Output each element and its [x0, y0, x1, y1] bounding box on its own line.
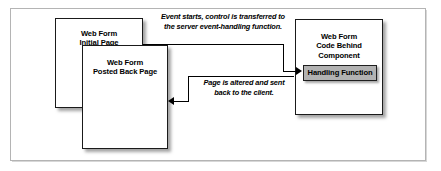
node-label-code-behind-line2: Code Behind Component — [316, 41, 362, 59]
top-arrow-head-icon — [296, 67, 302, 75]
annotation-top-arrow: Event starts, control is transferred to … — [152, 12, 294, 31]
annotation-bottom-arrow-line1: Page is altered and sent — [203, 78, 284, 87]
node-handling-function: Handling Function — [303, 65, 377, 81]
bottom-arrow-head-icon — [168, 97, 174, 105]
annotation-bottom-arrow-line2: back to the client. — [214, 88, 274, 97]
annotation-top-arrow-line2: the server event-handling function. — [164, 22, 282, 31]
node-label-code-behind-line1: Web Form — [321, 32, 357, 41]
node-web-form-posted-back-page: Web Form Posted Back Page — [82, 45, 168, 149]
node-label-initial-page-line1: Web Form — [81, 29, 117, 38]
top-arrow-segment-vertical — [283, 44, 284, 71]
node-label-posted-back-page-line1: Web Form — [107, 58, 143, 67]
top-arrow-segment-horizontal-1 — [143, 44, 284, 45]
bottom-arrow-segment-horizontal-1 — [188, 76, 294, 77]
node-web-form-code-behind-component: Web Form Code Behind Component Handling … — [295, 19, 383, 115]
bottom-arrow-segment-horizontal-2 — [174, 101, 189, 102]
bottom-arrow-segment-vertical — [188, 76, 189, 102]
annotation-bottom-arrow: Page is altered and sent back to the cli… — [192, 78, 296, 97]
diagram-canvas: Web Form Initial Page Web Form Posted Ba… — [0, 0, 441, 171]
node-handling-function-label: Handling Function — [304, 66, 376, 80]
node-label-code-behind: Web Form Code Behind Component — [296, 32, 382, 60]
top-arrow-segment-horizontal-2 — [283, 71, 296, 72]
node-label-posted-back-page: Web Form Posted Back Page — [83, 58, 167, 77]
annotation-top-arrow-line1: Event starts, control is transferred to — [161, 12, 285, 21]
node-label-posted-back-page-line2: Posted Back Page — [93, 67, 157, 76]
